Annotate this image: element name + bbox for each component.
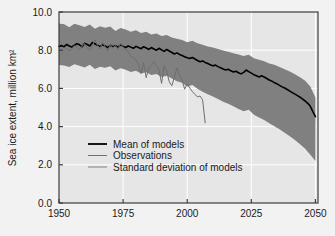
x-tick-label: 2050: [304, 208, 327, 219]
x-tick-label: 2000: [176, 208, 199, 219]
y-tick-label: 8.0: [38, 45, 52, 56]
y-axis-label: Sea ice extent, million km²: [7, 49, 18, 166]
y-tick-label: 4.0: [38, 121, 52, 132]
y-tick-label: 10.0: [33, 7, 53, 18]
legend-label: Standard deviation of models: [113, 162, 243, 173]
legend-label: Mean of models: [113, 139, 184, 150]
legend-label: Observations: [113, 150, 172, 161]
x-tick-label: 2025: [240, 208, 263, 219]
sea-ice-extent-chart: 19501975200020252050 0.02.04.06.08.010.0…: [0, 0, 335, 236]
chart-figure: 19501975200020252050 0.02.04.06.08.010.0…: [0, 0, 335, 236]
y-tick-label: 6.0: [38, 83, 52, 94]
y-tick-label: 0.0: [38, 198, 52, 209]
y-tick-label: 2.0: [38, 159, 52, 170]
x-tick-label: 1950: [48, 208, 71, 219]
x-tick-label: 1975: [112, 208, 135, 219]
